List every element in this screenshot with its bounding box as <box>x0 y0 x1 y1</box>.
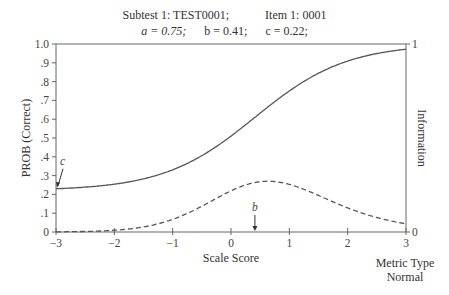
b-arrow-head <box>252 226 257 231</box>
y-axis-right-label: Information <box>415 109 429 166</box>
x-tick-label: 2 <box>345 237 351 249</box>
x-tick-label: 0 <box>228 237 234 249</box>
axis-ticks: 0.1.2.3.4.5.6.7.8.91.001−3−2−10123 <box>35 38 418 249</box>
x-tick-label: 3 <box>403 237 409 249</box>
y-tick-label: .9 <box>40 57 49 69</box>
x-tick-label: −2 <box>108 237 120 249</box>
y-tick-label: .4 <box>40 151 49 163</box>
y-tick-label: .5 <box>40 132 49 144</box>
y-right-tick-label: 1 <box>412 38 418 50</box>
y-tick-label: .6 <box>40 113 49 125</box>
information-curve <box>56 181 406 232</box>
x-tick-label: −3 <box>50 237 62 249</box>
curves <box>56 49 406 232</box>
c-arrow-head <box>56 182 60 188</box>
y-tick-label: .8 <box>40 76 49 88</box>
x-axis-label: Scale Score <box>203 251 259 265</box>
y-tick-label: 1.0 <box>35 38 50 50</box>
b-annotation-label: b <box>252 201 258 213</box>
plot-frame <box>56 44 406 232</box>
plot-area: 0.1.2.3.4.5.6.7.8.91.001−3−2−10123 cb PR… <box>0 0 449 295</box>
y-tick-label: .1 <box>40 207 49 219</box>
y-right-tick-label: 0 <box>412 226 418 238</box>
y-tick-label: .3 <box>40 170 49 182</box>
icc-curve <box>56 49 406 189</box>
y-axis-left-label: PROB (Correct) <box>19 99 33 177</box>
y-tick-label: 0 <box>43 226 49 238</box>
x-tick-label: 1 <box>286 237 292 249</box>
x-tick-label: −1 <box>167 237 179 249</box>
metric-normal-label: Normal <box>387 270 424 284</box>
y-tick-label: .2 <box>40 188 49 200</box>
metric-type-label: Metric Type <box>376 256 435 270</box>
y-tick-label: .7 <box>40 94 49 106</box>
c-annotation-label: c <box>60 155 65 167</box>
